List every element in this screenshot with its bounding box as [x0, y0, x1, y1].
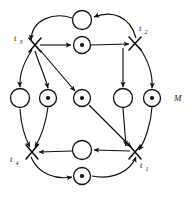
- transition-t3[interactable]: [29, 38, 41, 52]
- token: [80, 96, 84, 100]
- arc-t4-to-bottom-outer: [31, 157, 72, 178]
- arc-bottom-outer-to-t1: [92, 157, 136, 177]
- place-bottom-outer[interactable]: [74, 168, 91, 185]
- arc-bottom-inner-to-t4: [39, 151, 72, 152]
- diagram-canvas: t 3 t 2 t 4 t 1 M: [0, 0, 192, 198]
- token: [80, 43, 84, 47]
- place-left-outer[interactable]: [11, 89, 30, 108]
- arc-t3-to-left-outer: [20, 50, 32, 87]
- label-t1-sub: 1: [146, 166, 149, 172]
- arc-top-outer-to-t3: [31, 16, 72, 40]
- label-t1: t 1: [140, 160, 149, 172]
- label-t3: t 3: [14, 33, 23, 45]
- arc-t2-to-right-outer: [139, 47, 152, 88]
- arc-left-inner-to-t4: [35, 107, 48, 147]
- petri-net-svg: t 3 t 2 t 4 t 1 M: [0, 0, 192, 198]
- token: [80, 174, 84, 178]
- arc-t3-to-center: [40, 50, 75, 91]
- arc-t1-to-bottom-inner: [94, 150, 130, 151]
- arc-left-outer-to-t4: [20, 109, 30, 147]
- place-bottom-inner[interactable]: [73, 141, 92, 160]
- transition-t2[interactable]: [129, 37, 141, 50]
- label-t2-base: t: [139, 23, 142, 33]
- place-center[interactable]: [74, 90, 91, 107]
- place-top-outer[interactable]: [73, 11, 92, 30]
- place-top-inner[interactable]: [74, 37, 91, 54]
- token: [150, 96, 154, 100]
- marking-label-m: M: [173, 93, 182, 103]
- label-t4-sub: 4: [16, 160, 19, 166]
- arc-right-outer-to-t1: [139, 107, 152, 150]
- label-t4: t 4: [10, 154, 19, 166]
- place-left-inner[interactable]: [40, 90, 57, 107]
- label-t4-base: t: [10, 154, 13, 164]
- transition-t1[interactable]: [129, 145, 141, 159]
- transition-t4[interactable]: [26, 145, 38, 159]
- label-t2-sub: 2: [145, 29, 148, 35]
- token: [46, 96, 50, 100]
- place-right-outer[interactable]: [144, 90, 161, 107]
- label-t3-sub: 3: [19, 39, 23, 45]
- arc-t2-to-top-outer: [94, 14, 136, 38]
- place-right-inner[interactable]: [114, 89, 133, 108]
- label-t1-base: t: [140, 160, 143, 170]
- label-t2: t 2: [139, 23, 148, 35]
- place-group: [11, 11, 161, 185]
- arc-top-inner-to-t2: [91, 44, 129, 45]
- label-t3-base: t: [14, 33, 17, 43]
